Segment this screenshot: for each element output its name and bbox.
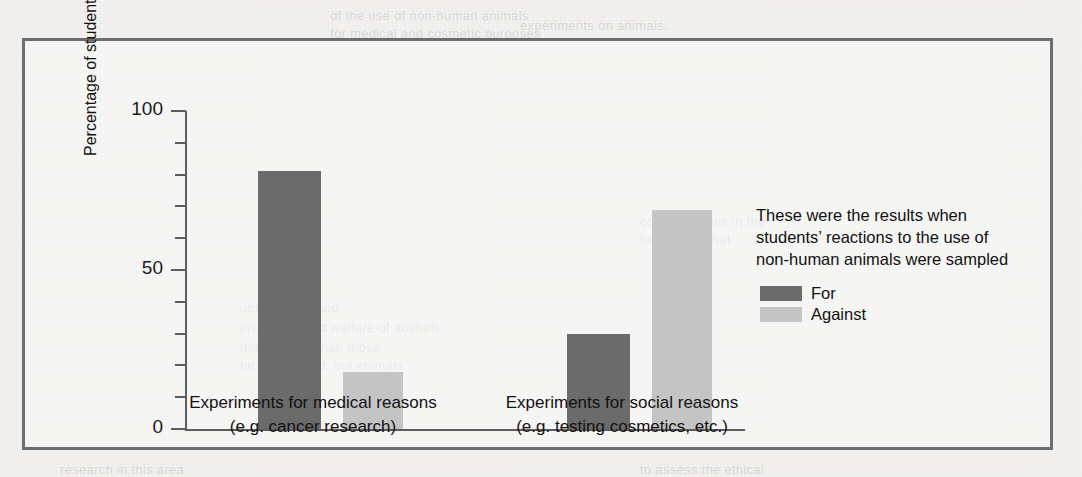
y-axis-tick: 100 <box>171 110 186 112</box>
y-axis-tick-label: 100 <box>131 98 163 120</box>
bleed-through-line: of the use of non-human animals <box>330 8 529 23</box>
legend-label-for: For <box>811 283 836 303</box>
category-label-line: (e.g. testing cosmetics, etc.) <box>432 415 812 439</box>
category-label-line: Experiments for social reasons <box>432 391 812 415</box>
legend-caption-line: These were the results when <box>756 204 1052 226</box>
legend-label-against: Against <box>811 304 866 324</box>
legend-item-for: For <box>760 283 1056 303</box>
x-axis-category-label-2: Experiments for social reasons(e.g. test… <box>432 391 812 439</box>
legend-caption-line: students’ reactions to the use of <box>756 226 1052 248</box>
y-axis-tick <box>175 364 186 366</box>
y-axis-tick-label: 50 <box>142 257 163 279</box>
legend-swatch-against <box>760 307 802 322</box>
y-axis-title: Percentage of students <box>82 0 100 156</box>
legend-caption-line: non-human animals were sampled <box>756 248 1052 270</box>
y-axis-tick <box>175 301 186 303</box>
legend-swatch-for <box>760 286 802 301</box>
figure-frame: Percentage of students 100500 Experiment… <box>22 38 1053 450</box>
legend-block: These were the results whenstudents’ rea… <box>756 204 1056 325</box>
plot-area: 100500 <box>185 111 745 429</box>
bleed-through-line: experiments on animals. <box>520 18 668 33</box>
legend-items: ForAgainst <box>760 283 1056 324</box>
legend-item-against: Against <box>760 304 1056 324</box>
bleed-through-line: to assess the ethical <box>640 462 764 477</box>
y-axis-tick <box>175 237 186 239</box>
y-axis-tick <box>175 174 186 176</box>
y-axis-tick: 50 <box>171 269 186 271</box>
y-axis-tick <box>175 142 186 144</box>
y-axis-tick <box>175 333 186 335</box>
legend-caption: These were the results whenstudents’ rea… <box>756 204 1052 270</box>
y-axis-tick <box>175 205 186 207</box>
bleed-through-line: research in this area <box>60 462 184 477</box>
